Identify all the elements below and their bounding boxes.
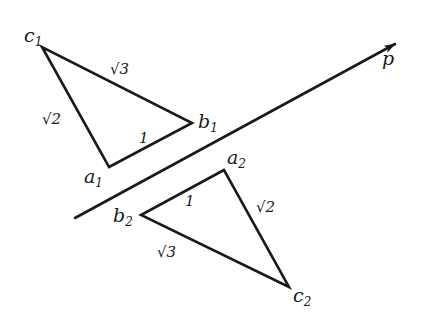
edge-label-c1a1: √2	[42, 110, 61, 128]
vertex-label-c2: c2	[293, 284, 311, 309]
vertex-label-c1: c1	[24, 24, 42, 49]
edge-label-b1c1: √3	[110, 60, 129, 78]
edge-label-a1b1: 1	[139, 129, 149, 147]
vertex-label-b2: b2	[113, 204, 133, 229]
vertex-label-a1: a1	[84, 165, 103, 190]
triangle-2	[141, 170, 289, 287]
edge-label-c2a2: √2	[256, 198, 275, 216]
axis-label-p: p	[382, 47, 394, 69]
edge-label-b2c2: √3	[157, 243, 176, 261]
edge-label-a2b2: 1	[185, 192, 195, 210]
diagram-canvas: p c1 b1 a1 √3 √2 1 a2 b2 c2 1 √2 √3	[0, 0, 425, 330]
vertex-label-b1: b1	[198, 110, 218, 135]
vertex-label-a2: a2	[227, 146, 246, 171]
